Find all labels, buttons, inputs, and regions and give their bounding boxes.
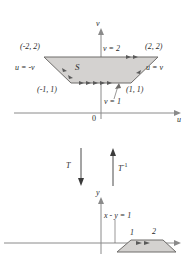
forward-transform-arrow — [78, 148, 84, 186]
forward-transform-label: T — [66, 162, 70, 170]
inverse-transform-label: T-1 — [118, 162, 127, 173]
edge-label-v-equals-1: v = 1 — [104, 98, 121, 106]
vertex-label-top-left: (-2, 2) — [20, 43, 40, 51]
vertex-label-bottom-right: (1, 1) — [126, 86, 143, 94]
uv-vertical-axis-label: v — [96, 20, 100, 28]
vertex-label-bottom-left: (-1, 1) — [37, 86, 57, 94]
transformation-figure: v u 0 (-2, 2) (2, 2) (-1, 1) (1, 1) v = … — [0, 0, 192, 254]
vertex-label-top-right: (2, 2) — [145, 43, 162, 51]
region-s-shape — [44, 57, 158, 83]
xy-tick-label-1: 1 — [130, 229, 134, 237]
region-s-label: S — [75, 63, 80, 72]
xy-tick-label-2: 2 — [152, 228, 156, 236]
region-r-shape — [117, 240, 176, 252]
xy-vertical-axis-label: y — [96, 189, 100, 197]
figure-linework — [0, 0, 192, 254]
inverse-transform-exponent: -1 — [122, 162, 127, 168]
uv-horizontal-axis-label: u — [177, 116, 181, 124]
edge-label-u-equals-v: u = v — [146, 64, 163, 72]
edge-label-v-equals-2: v = 2 — [103, 45, 120, 53]
inverse-transform-arrow — [110, 148, 116, 186]
edge-label-u-equals-minus-v: u = -v — [15, 64, 35, 72]
uv-origin-label: 0 — [92, 115, 96, 123]
line-label-x-minus-y-equals-1: x - y = 1 — [104, 212, 131, 220]
